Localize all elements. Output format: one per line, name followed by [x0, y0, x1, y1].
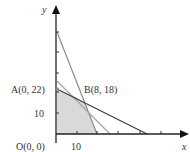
point-a-label: A(0, 22): [11, 84, 45, 96]
point-b-label: B(8, 18): [84, 84, 117, 96]
x-tick-label-10: 10: [71, 141, 81, 152]
linear-programming-diagram: y x 10 10 A(0, 22) B(8, 18) O(0, 0): [0, 0, 190, 152]
x-axis-label: x: [181, 141, 187, 152]
y-axis-label: y: [41, 4, 47, 15]
point-a-marker: [55, 87, 59, 91]
y-axis-arrow-icon: [52, 5, 60, 14]
feasible-region: [57, 89, 97, 134]
origin-label: O(0, 0): [16, 141, 45, 152]
x-axis-arrow-icon: [180, 130, 189, 138]
y-tick-label-10: 10: [34, 108, 44, 119]
